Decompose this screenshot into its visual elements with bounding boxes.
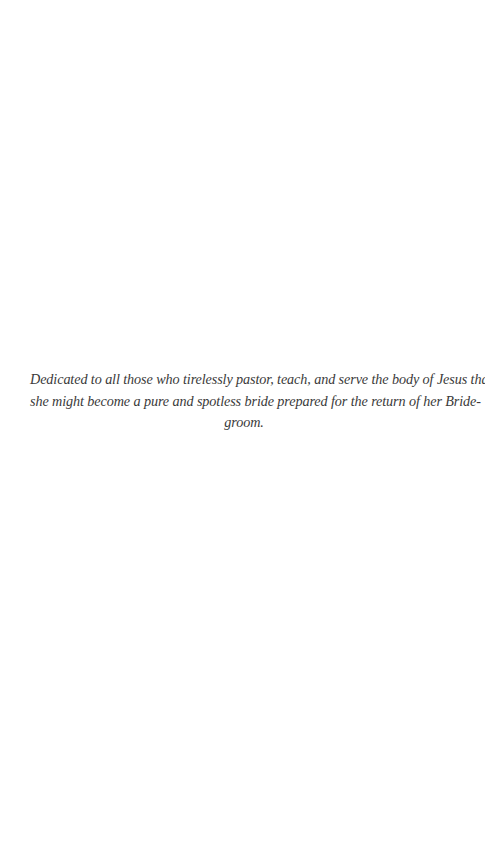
dedication-paragraph: Dedicated to all those who tirelessly pa… [30, 369, 458, 434]
dedication-line-2: she might become a pure and spotless bri… [30, 391, 458, 413]
document-page: Dedicated to all those who tirelessly pa… [0, 0, 485, 859]
dedication-line-1: Dedicated to all those who tirelessly pa… [30, 369, 458, 391]
dedication-line-3: groom. [30, 412, 458, 434]
